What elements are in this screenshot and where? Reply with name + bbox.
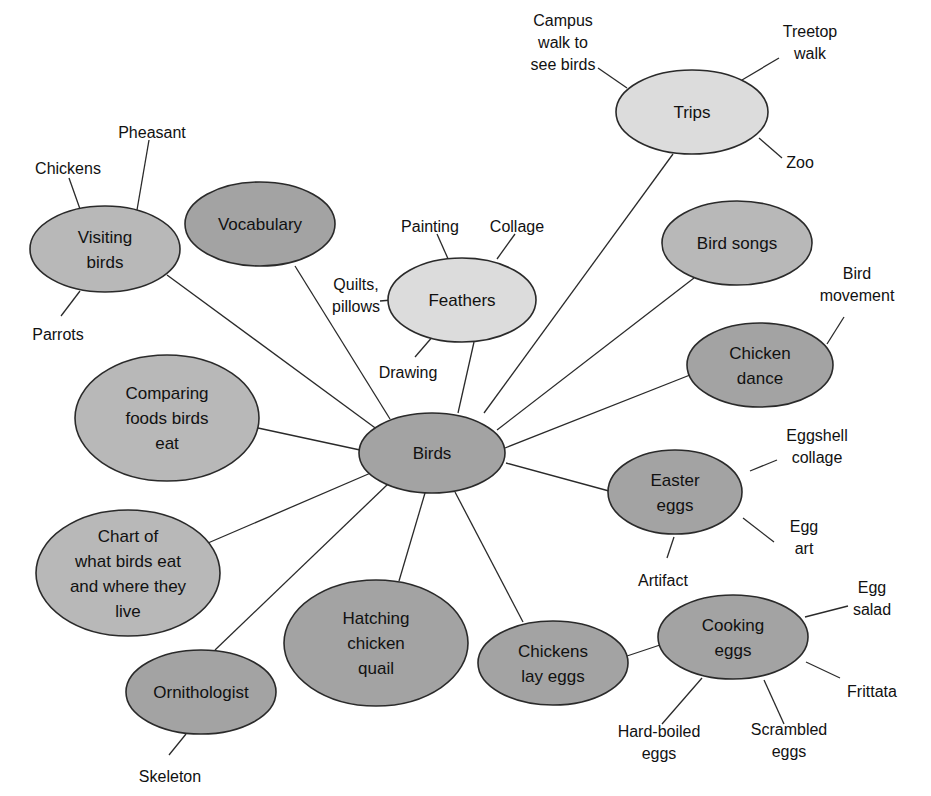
leaf-label: Pheasant bbox=[118, 124, 186, 141]
leaf-label: Parrots bbox=[32, 326, 84, 343]
leaf-connector-cooking-eggs bbox=[764, 680, 784, 724]
node-label: live bbox=[115, 602, 141, 621]
leaf-label: Artifact bbox=[638, 572, 688, 589]
leaf-cooking-eggs: Hard-boiledeggs bbox=[618, 723, 701, 762]
node-label: Cooking bbox=[702, 616, 764, 635]
node-label: Chicken bbox=[729, 344, 790, 363]
leaf-label: Frittata bbox=[847, 683, 897, 700]
node-label: what birds eat bbox=[74, 552, 181, 571]
leaf-label: Egg bbox=[858, 579, 886, 596]
leaf-easter-eggs: Eggshellcollage bbox=[786, 427, 847, 466]
node-label: Easter bbox=[650, 471, 699, 490]
leaf-connector-cooking-eggs bbox=[806, 662, 840, 678]
leaf-connector-cooking-eggs bbox=[805, 606, 848, 617]
leaf-visiting-birds: Pheasant bbox=[118, 124, 186, 141]
node-hatching: Hatchingchickenquail bbox=[284, 580, 468, 706]
leaf-label: collage bbox=[792, 449, 843, 466]
leaf-cooking-eggs: Frittata bbox=[847, 683, 897, 700]
edge-birds-to-comparing-foods bbox=[258, 428, 360, 450]
node-comparing-foods: Comparingfoods birdseat bbox=[75, 355, 259, 481]
leaf-label: see birds bbox=[531, 56, 596, 73]
leaf-label: Hard-boiled bbox=[618, 723, 701, 740]
leaf-label: eggs bbox=[642, 745, 677, 762]
edge-birds-to-easter-eggs bbox=[506, 463, 609, 491]
node-label: Feathers bbox=[428, 291, 495, 310]
leaf-connector-trips bbox=[759, 138, 782, 158]
leaf-connector-feathers bbox=[437, 234, 449, 261]
leaf-visiting-birds: Chickens bbox=[35, 160, 101, 177]
leaf-connector-easter-eggs bbox=[667, 537, 674, 558]
leaf-feathers: Drawing bbox=[379, 364, 438, 381]
leaf-label: Painting bbox=[401, 218, 459, 235]
node-birds: Birds bbox=[359, 413, 505, 493]
leaf-connector-visiting-birds bbox=[137, 140, 149, 210]
node-ornithologist: Ornithologist bbox=[126, 650, 276, 734]
leaf-label: Chickens bbox=[35, 160, 101, 177]
leaf-ornithologist: Skeleton bbox=[139, 768, 201, 785]
birds-concept-web: Web of Activity and Learning BirdsTripsV… bbox=[0, 0, 931, 796]
leaf-visiting-birds: Parrots bbox=[32, 326, 84, 343]
leaf-connector-chicken-dance bbox=[827, 317, 844, 344]
leaf-cooking-eggs: Eggsalad bbox=[853, 579, 891, 618]
node-label: Ornithologist bbox=[153, 683, 249, 702]
leaf-connector-trips bbox=[742, 58, 779, 80]
leaf-label: Skeleton bbox=[139, 768, 201, 785]
leaf-connector-visiting-birds bbox=[69, 178, 80, 209]
node-label: Chart of bbox=[98, 527, 159, 546]
leaf-trips: Zoo bbox=[786, 154, 814, 171]
leaf-label: Egg bbox=[790, 518, 818, 535]
node-easter-eggs: Eastereggs bbox=[608, 450, 742, 534]
leaf-label: Bird bbox=[843, 265, 871, 282]
node-ellipse bbox=[687, 323, 833, 407]
leaf-label: walk bbox=[793, 45, 827, 62]
node-label: Trips bbox=[673, 103, 710, 122]
node-chicken-dance: Chickendance bbox=[687, 323, 833, 407]
node-trips: Trips bbox=[616, 70, 768, 154]
node-chart-birds-eat: Chart ofwhat birds eatand where theylive bbox=[36, 510, 220, 636]
topic-nodes: BirdsTripsVisitingbirdsVocabularyFeather… bbox=[30, 70, 833, 734]
node-label: Birds bbox=[413, 444, 452, 463]
node-label: Comparing bbox=[125, 384, 208, 403]
node-chickens-lay-eggs: Chickenslay eggs bbox=[478, 621, 628, 705]
leaf-label: movement bbox=[820, 287, 895, 304]
node-feathers: Feathers bbox=[388, 258, 536, 342]
node-label: Vocabulary bbox=[218, 215, 303, 234]
leaf-feathers: Quilts,pillows bbox=[332, 276, 380, 315]
leaf-easter-eggs: Eggart bbox=[790, 518, 818, 557]
edge-birds-to-chicken-dance bbox=[505, 375, 690, 448]
node-bird-songs: Bird songs bbox=[662, 201, 812, 285]
node-label: dance bbox=[737, 369, 783, 388]
leaf-label: Treetop bbox=[783, 23, 838, 40]
edge-birds-to-hatching bbox=[399, 493, 425, 581]
edge-birds-to-chart-birds-eat bbox=[208, 472, 373, 543]
node-label: Hatching bbox=[342, 609, 409, 628]
edge-birds-to-feathers bbox=[458, 342, 474, 413]
node-label: chicken bbox=[347, 634, 405, 653]
leaf-label: art bbox=[795, 540, 814, 557]
leaf-connector-feathers bbox=[497, 234, 515, 259]
edge-chickens-lay-eggs-to-cooking-eggs bbox=[627, 645, 660, 656]
leaf-easter-eggs: Artifact bbox=[638, 572, 688, 589]
node-label: eggs bbox=[657, 496, 694, 515]
edge-birds-to-chickens-lay-eggs bbox=[455, 492, 523, 622]
leaf-label: Zoo bbox=[786, 154, 814, 171]
leaf-label: Campus bbox=[533, 12, 593, 29]
node-label: Chickens bbox=[518, 642, 588, 661]
leaf-trips: Campuswalk tosee birds bbox=[531, 12, 596, 73]
leaf-connector-easter-eggs bbox=[743, 518, 774, 542]
leaf-label: Collage bbox=[490, 218, 544, 235]
node-label: eat bbox=[155, 434, 179, 453]
node-ellipse bbox=[658, 595, 808, 679]
node-cooking-eggs: Cookingeggs bbox=[658, 595, 808, 679]
node-ellipse bbox=[608, 450, 742, 534]
node-label: eggs bbox=[715, 641, 752, 660]
leaf-label: salad bbox=[853, 601, 891, 618]
node-vocabulary: Vocabulary bbox=[185, 182, 335, 266]
leaf-feathers: Collage bbox=[490, 218, 544, 235]
leaf-connector-easter-eggs bbox=[750, 460, 777, 471]
leaf-label: eggs bbox=[772, 743, 807, 760]
node-visiting-birds: Visitingbirds bbox=[30, 206, 180, 292]
node-ellipse bbox=[30, 206, 180, 292]
leaf-label: pillows bbox=[332, 298, 380, 315]
node-label: lay eggs bbox=[521, 667, 584, 686]
